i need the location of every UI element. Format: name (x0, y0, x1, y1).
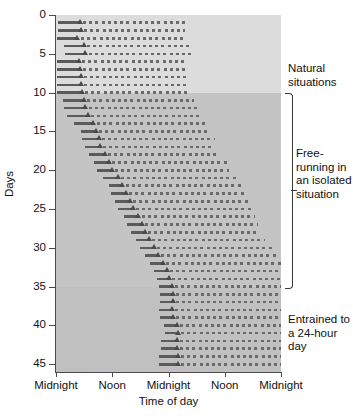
actogram-row (56, 138, 281, 141)
y-axis-tick (49, 93, 55, 94)
activity-dotted-bar (142, 215, 256, 218)
actogram-row (56, 347, 281, 350)
onset-triangle-marker (139, 221, 145, 226)
onset-triangle-marker (164, 267, 170, 272)
actogram-row (56, 21, 281, 24)
onset-triangle-marker (135, 213, 141, 218)
actogram-row (56, 146, 281, 149)
activity-dotted-bar (180, 347, 281, 350)
annotation-natural-situations: Natural situations (288, 62, 350, 89)
activity-dotted-bar (180, 324, 281, 327)
y-axis-tick (49, 54, 55, 55)
actogram-row (56, 239, 281, 242)
actogram-row (56, 208, 281, 211)
activity-dotted-bar (85, 91, 190, 94)
x-axis-tick-label: Midnight (245, 379, 317, 392)
actogram-row (56, 45, 281, 48)
onset-triangle-marker (155, 252, 161, 257)
activity-dotted-bar (145, 223, 258, 226)
y-axis-tick-label: 10 (22, 87, 46, 98)
onset-triangle-marker (78, 81, 84, 86)
y-axis-tick (49, 364, 55, 365)
activity-dotted-bar (112, 161, 227, 164)
onset-triangle-marker (119, 182, 125, 187)
activity-dotted-bar (115, 169, 229, 172)
y-axis-tick-label: 40 (22, 319, 46, 330)
onset-triangle-marker (170, 298, 176, 303)
actogram-row (56, 68, 281, 71)
activity-dotted-bar (148, 231, 260, 234)
onset-triangle-marker (175, 330, 181, 335)
actogram-row (56, 309, 281, 312)
actogram-row (56, 223, 281, 226)
y-axis-tick (49, 131, 55, 132)
actogram-row (56, 270, 281, 273)
actogram-row (56, 355, 281, 358)
onset-triangle-marker (160, 260, 166, 265)
onset-triangle-marker (85, 112, 91, 117)
actogram-row (56, 278, 281, 281)
onset-triangle-marker (82, 104, 88, 109)
activity-dotted-bar (181, 355, 281, 358)
activity-dotted-bar (97, 122, 207, 125)
y-axis-tick-label: 25 (22, 203, 46, 214)
activity-dotted-bar (89, 107, 199, 110)
y-axis-tick (49, 15, 55, 16)
activity-dotted-bar (108, 153, 220, 156)
actogram-row (56, 37, 281, 40)
y-axis-tick (49, 209, 55, 210)
x-axis-tick (56, 372, 57, 377)
onset-triangle-marker (90, 120, 96, 125)
activity-dotted-bar (152, 239, 265, 242)
actogram-row (56, 262, 281, 265)
activity-dotted-bar (166, 262, 281, 265)
activity-dotted-bar (136, 208, 251, 211)
activity-dotted-bar (89, 53, 195, 56)
activity-dotted-bar (176, 316, 281, 319)
onset-triangle-marker (109, 167, 115, 172)
onset-triangle-marker (96, 135, 102, 140)
onset-triangle-marker (174, 337, 180, 342)
actogram-row (56, 293, 281, 296)
activity-dotted-bar (87, 99, 195, 102)
onset-triangle-marker (166, 275, 172, 280)
activity-dotted-bar (175, 285, 281, 288)
activity-dotted-bar (84, 84, 187, 87)
activity-dotted-bar (83, 68, 187, 71)
actogram-row (56, 161, 281, 164)
y-axis-tick-label: 20 (22, 164, 46, 175)
activity-dotted-bar (87, 45, 192, 48)
y-axis-tick (49, 170, 55, 171)
onset-triangle-marker (142, 229, 148, 234)
y-axis-tick-label: 5 (22, 48, 46, 59)
activity-dotted-bar (181, 332, 281, 335)
activity-dotted-bar (103, 146, 213, 149)
y-axis-tick-label: 15 (22, 125, 46, 136)
y-axis-tick-label: 30 (22, 242, 46, 253)
actogram-row (56, 53, 281, 56)
onset-triangle-marker (102, 151, 108, 156)
y-axis-tick (49, 248, 55, 249)
activity-dotted-bar (181, 363, 281, 366)
y-axis-tick (49, 287, 55, 288)
annotation-entrained: Entrained to a 24-hour day (288, 313, 350, 354)
activity-dotted-bar (180, 340, 281, 343)
x-axis-label: Time of day (56, 395, 281, 407)
actogram-row (56, 99, 281, 102)
activity-dotted-bar (172, 278, 281, 281)
y-axis-tick (49, 325, 55, 326)
onset-triangle-marker (74, 35, 80, 40)
onset-triangle-marker (97, 143, 103, 148)
onset-triangle-marker (93, 128, 99, 133)
onset-triangle-marker (169, 283, 175, 288)
onset-triangle-marker (77, 66, 83, 71)
actogram-row (56, 169, 281, 172)
x-axis-tick (225, 372, 226, 377)
actogram-row (56, 324, 281, 327)
onset-triangle-marker (170, 314, 176, 319)
actogram-row (56, 340, 281, 343)
shaded-band-entrained (56, 287, 281, 372)
activity-dotted-bar (157, 247, 272, 250)
activity-dotted-bar (161, 254, 276, 257)
activity-dotted-bar (84, 29, 185, 32)
